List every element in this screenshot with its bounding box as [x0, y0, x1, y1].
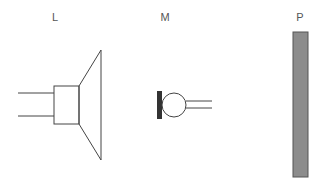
- mic-diaphragm: [157, 91, 162, 119]
- speaker-icon: [18, 50, 101, 160]
- microphone-icon: [157, 91, 212, 119]
- reflector-plate: [293, 32, 308, 177]
- label-speaker: L: [52, 11, 58, 23]
- label-plate: P: [296, 11, 303, 23]
- diagram-canvas: L M P: [0, 0, 318, 183]
- speaker-cone: [79, 50, 101, 160]
- label-microphone: M: [160, 11, 169, 23]
- speaker-magnet: [54, 86, 79, 124]
- mic-capsule: [162, 93, 186, 117]
